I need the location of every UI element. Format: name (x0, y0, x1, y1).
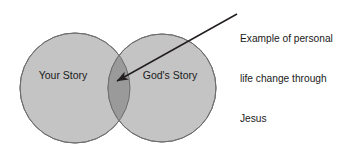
venn-diagram: Your Story God's Story Example of person… (0, 0, 349, 158)
venn-label-your-story: Your Story (39, 69, 88, 81)
callout-text-block: Example of personal life change through … (240, 6, 348, 151)
callout-line-2: life change through (240, 72, 348, 85)
callout-line-3: Jesus (240, 112, 348, 125)
callout-line-1: Example of personal (240, 32, 348, 45)
venn-label-gods-story: God's Story (143, 69, 198, 81)
